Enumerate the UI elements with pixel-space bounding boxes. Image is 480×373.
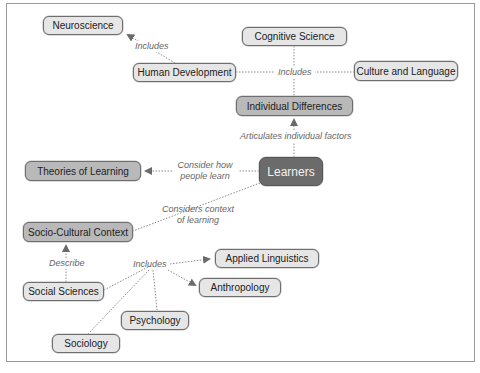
edge-hub-applied: [170, 259, 209, 264]
node-sociology[interactable]: Sociology: [52, 334, 120, 353]
edge-label-includes-center: Includes: [275, 67, 315, 78]
node-label: Theories of Learning: [37, 166, 129, 177]
edge-label-includes-neuro: Includes: [135, 41, 169, 52]
edge-label-describe: Describe: [47, 258, 87, 269]
node-individual-differences[interactable]: Individual Differences: [236, 96, 353, 116]
node-label: Social Sciences: [28, 286, 99, 297]
node-neuroscience[interactable]: Neuroscience: [43, 16, 123, 35]
node-label: Individual Differences: [247, 101, 342, 112]
node-learners[interactable]: Learners: [259, 157, 323, 186]
node-social-sciences[interactable]: Social Sciences: [23, 282, 104, 301]
node-label: Sociology: [64, 338, 107, 349]
edge-label-considers-context: Considers context of learning: [162, 204, 234, 226]
node-label: Anthropology: [211, 282, 270, 293]
node-applied-linguistics[interactable]: Applied Linguistics: [215, 249, 319, 268]
node-human-development[interactable]: Human Development: [133, 63, 236, 82]
node-label: Culture and Language: [357, 66, 456, 77]
edge-label-articulates: Articulates individual factors: [240, 131, 352, 142]
node-label: Human Development: [138, 67, 232, 78]
edge-hub-anthro: [168, 270, 195, 285]
node-cognitive-science[interactable]: Cognitive Science: [242, 27, 347, 46]
node-anthropology[interactable]: Anthropology: [199, 278, 281, 297]
node-label: Neuroscience: [52, 20, 113, 31]
node-theories-of-learning[interactable]: Theories of Learning: [25, 161, 141, 181]
edge-label-includes-social: Includes: [133, 259, 167, 270]
node-label: Cognitive Science: [254, 31, 334, 42]
node-psychology[interactable]: Psychology: [121, 311, 189, 330]
node-label: Socio-Cultural Context: [28, 227, 128, 238]
node-label: Learners: [267, 165, 314, 179]
node-label: Psychology: [129, 315, 180, 326]
edge-label-consider-how: Consider how people learn: [172, 160, 238, 182]
node-socio-cultural-context[interactable]: Socio-Cultural Context: [23, 222, 133, 242]
node-label: Applied Linguistics: [226, 253, 309, 264]
node-culture-language[interactable]: Culture and Language: [354, 61, 458, 81]
edge-hub-psych: [153, 270, 157, 310]
edge-layer: [0, 0, 480, 373]
